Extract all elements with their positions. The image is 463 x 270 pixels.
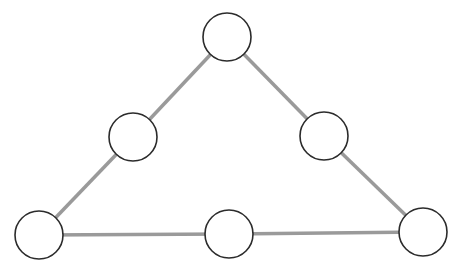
node-circle xyxy=(203,13,251,61)
node-circle xyxy=(205,210,253,258)
node-circle xyxy=(109,113,157,161)
node-right-mid xyxy=(300,112,348,160)
edge-bottom-mid-bottom-right xyxy=(229,232,423,234)
node-circle xyxy=(15,211,63,259)
node-left-mid xyxy=(109,113,157,161)
edges-layer xyxy=(39,37,423,235)
node-top xyxy=(203,13,251,61)
node-bottom-mid xyxy=(205,210,253,258)
node-circle xyxy=(300,112,348,160)
nodes-layer xyxy=(15,13,447,259)
node-bottom-right xyxy=(399,208,447,256)
node-circle xyxy=(399,208,447,256)
node-bottom-left xyxy=(15,211,63,259)
graph-diagram xyxy=(0,0,463,270)
edge-bottom-left-bottom-mid xyxy=(39,234,229,235)
